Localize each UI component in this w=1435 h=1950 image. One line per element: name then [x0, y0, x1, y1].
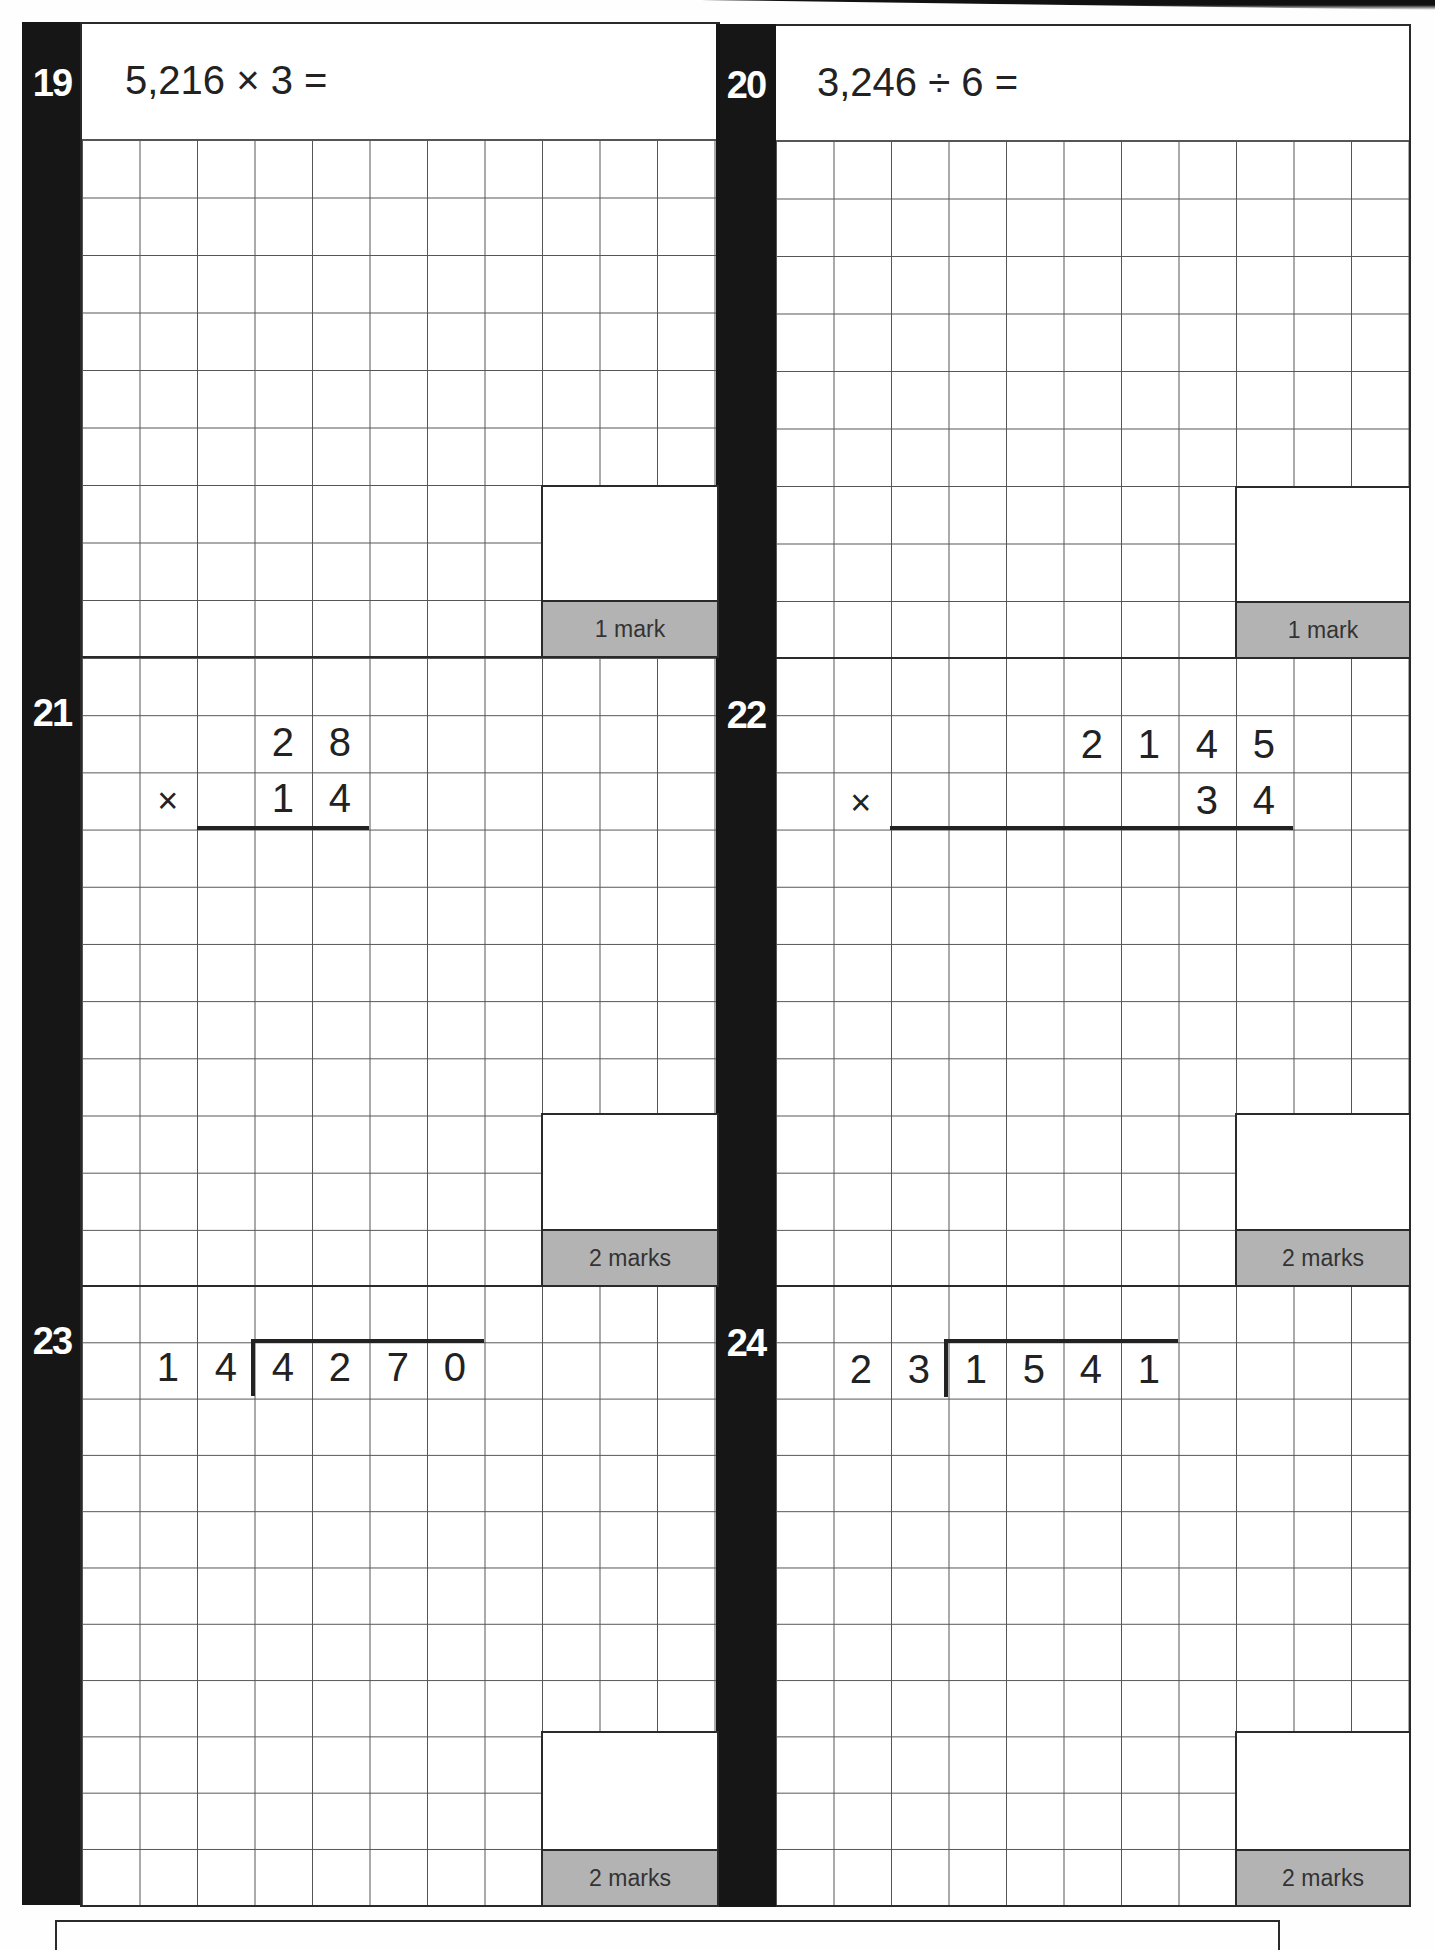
q24-dividend-digit: 5: [1005, 1347, 1063, 1392]
q21-digit: 4: [311, 776, 369, 821]
header-divider-19: [82, 139, 718, 140]
q21-digit: 1: [254, 776, 312, 821]
q23-division-bracket: [251, 1339, 255, 1396]
q22-digit: 1: [1120, 722, 1178, 767]
right-question-bar: [716, 24, 776, 1907]
q22-operator: ×: [832, 782, 890, 824]
q24-divisor-digit: 2: [832, 1347, 890, 1392]
question-number-22: 22: [716, 694, 776, 737]
question-20-prompt: 3,246 ÷ 6 =: [817, 60, 1018, 105]
q21-digit: 2: [254, 720, 312, 765]
q22-digit: 3: [1178, 778, 1236, 823]
q22-digit: 4: [1178, 722, 1236, 767]
q22-digit: 2: [1063, 722, 1121, 767]
q22-digit: 5: [1235, 722, 1293, 767]
q24-division-bar: [944, 1339, 1178, 1343]
q23-divisor-digit: 1: [139, 1345, 197, 1390]
footer-box: [55, 1920, 1280, 1950]
q23-division-bar: [251, 1339, 484, 1343]
q24-dividend-digit: 1: [1120, 1347, 1178, 1392]
marks-label: 1 mark: [1237, 601, 1409, 657]
q24-dividend-digit: 1: [947, 1347, 1005, 1392]
marks-label: 2 marks: [543, 1229, 717, 1285]
q23-dividend-digit: 7: [369, 1345, 427, 1390]
question-number-21: 21: [22, 692, 82, 735]
answer-box-19[interactable]: 1 mark: [541, 485, 719, 658]
question-number-23: 23: [22, 1320, 82, 1363]
marks-label: 2 marks: [1237, 1849, 1409, 1905]
question-19-prompt: 5,216 × 3 =: [125, 58, 327, 103]
q23-dividend-digit: 4: [254, 1345, 312, 1390]
answer-box-24[interactable]: 2 marks: [1235, 1731, 1411, 1907]
q21-operator: ×: [139, 780, 197, 822]
q24-division-bracket: [944, 1339, 948, 1397]
answer-box-20[interactable]: 1 mark: [1235, 486, 1411, 659]
question-number-19: 19: [22, 62, 82, 105]
answer-box-23[interactable]: 2 marks: [541, 1731, 719, 1907]
page-edge-shadow: [700, 0, 1435, 10]
left-question-bar: [22, 22, 82, 1905]
q24-dividend-digit: 4: [1062, 1347, 1120, 1392]
q23-divisor-digit: 4: [197, 1345, 255, 1390]
marks-label: 2 marks: [543, 1849, 717, 1905]
q22-digit: 4: [1235, 778, 1293, 823]
question-number-20: 20: [716, 64, 776, 107]
marks-label: 2 marks: [1237, 1229, 1409, 1285]
q22-answer-line: [890, 826, 1293, 830]
q23-dividend-digit: 0: [426, 1345, 484, 1390]
q23-dividend-digit: 2: [311, 1345, 369, 1390]
answer-box-22[interactable]: 2 marks: [1235, 1113, 1411, 1287]
marks-label: 1 mark: [543, 600, 717, 656]
header-divider-20: [776, 140, 1409, 141]
q21-digit: 8: [311, 720, 369, 765]
q24-divisor-digit: 3: [890, 1347, 948, 1392]
question-number-24: 24: [716, 1322, 776, 1365]
answer-box-21[interactable]: 2 marks: [541, 1113, 719, 1287]
q21-answer-line: [197, 826, 369, 830]
